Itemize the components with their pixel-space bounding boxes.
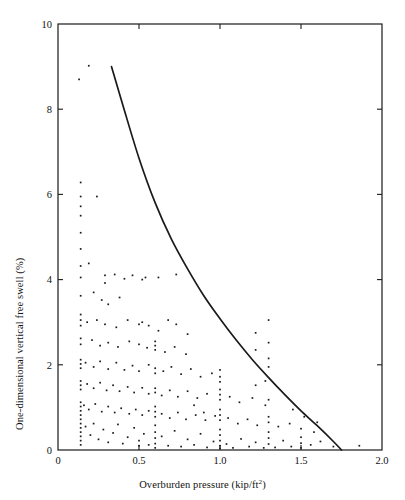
y-tick-label: 4 bbox=[47, 274, 53, 285]
x-axis-title-text: Overburden pressure (kip/ft bbox=[139, 479, 258, 490]
y-axis-title: One-dimensional vertical free swell (%) bbox=[14, 10, 25, 430]
y-tick-label: 2 bbox=[47, 360, 52, 371]
x-axis-title-suffix: ) bbox=[262, 479, 266, 490]
y-tick-label: 10 bbox=[42, 19, 53, 30]
scatter-plot: 00.51.01.52.00246810 bbox=[0, 0, 405, 500]
x-tick-label: 2.0 bbox=[375, 455, 388, 466]
x-axis-title: Overburden pressure (kip/ft2) bbox=[0, 479, 405, 490]
figure-container: 00.51.01.52.00246810 Overburden pressure… bbox=[0, 0, 405, 500]
plot-background bbox=[0, 0, 405, 500]
y-tick-label: 6 bbox=[47, 189, 52, 200]
y-tick-label: 8 bbox=[47, 104, 52, 115]
y-tick-label: 0 bbox=[47, 445, 52, 456]
x-tick-label: 0 bbox=[55, 455, 60, 466]
x-tick-label: 1.5 bbox=[294, 455, 307, 466]
x-tick-label: 1.0 bbox=[213, 455, 226, 466]
x-tick-label: 0.5 bbox=[132, 455, 145, 466]
